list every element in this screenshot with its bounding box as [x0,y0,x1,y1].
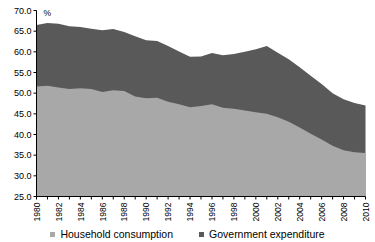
svg-text:2000: 2000 [251,202,261,221]
svg-text:%: % [44,8,52,18]
svg-text:1996: 1996 [207,202,217,221]
svg-text:25.0: 25.0 [14,192,32,202]
svg-text:60.0: 60.0 [14,47,32,57]
svg-text:1986: 1986 [98,202,108,221]
svg-text:1992: 1992 [163,202,173,221]
svg-text:1982: 1982 [54,202,64,221]
svg-text:45.0: 45.0 [14,109,32,119]
svg-text:65.0: 65.0 [14,26,32,36]
svg-text:2010: 2010 [361,202,371,221]
legend-item-household-consumption[interactable]: Household consumption [50,228,173,240]
legend-label-household-consumption: Household consumption [60,228,173,240]
svg-text:30.0: 30.0 [14,171,32,181]
svg-text:2004: 2004 [295,202,305,221]
svg-text:70.0: 70.0 [14,6,32,16]
svg-text:55.0: 55.0 [14,68,32,78]
svg-text:2006: 2006 [317,202,327,221]
legend-swatch-household-consumption [50,232,55,237]
svg-text:1998: 1998 [229,202,239,221]
svg-text:1984: 1984 [76,202,86,221]
legend-label-government-expenditure: Government expenditure [209,228,325,240]
chart-legend: Household consumption Government expendi… [0,226,375,242]
svg-text:1994: 1994 [185,202,195,221]
stacked-area-chart: 70.065.060.055.050.045.040.035.030.025.0… [0,0,375,242]
legend-item-government-expenditure[interactable]: Government expenditure [199,228,325,240]
svg-text:35.0: 35.0 [14,150,32,160]
legend-swatch-government-expenditure [199,232,204,237]
svg-text:1990: 1990 [141,202,151,221]
svg-text:2002: 2002 [273,202,283,221]
svg-text:2008: 2008 [339,202,349,221]
chart-canvas: 70.065.060.055.050.045.040.035.030.025.0… [0,0,375,242]
svg-text:50.0: 50.0 [14,88,32,98]
svg-text:40.0: 40.0 [14,130,32,140]
svg-text:1988: 1988 [119,202,129,221]
svg-text:1980: 1980 [32,202,42,221]
